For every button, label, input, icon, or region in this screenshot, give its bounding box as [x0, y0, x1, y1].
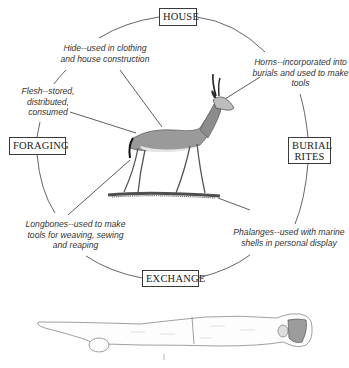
- category-box-burial-rites: BURIAL RITES: [288, 137, 331, 164]
- category-box-exchange: EXCHANGE: [142, 270, 199, 287]
- leader-hide: [120, 70, 162, 127]
- annotation-longbones: Longbones--used to make tools for weavin…: [18, 219, 133, 251]
- leader-longbones: [68, 160, 130, 215]
- annotation-hide: Hide--used in clothing and house constru…: [45, 43, 165, 64]
- annotation-phalanges: Phalanges--used with marine shells in pe…: [228, 227, 349, 248]
- bone-tool-illustration: [38, 314, 312, 360]
- category-box-house: HOUSE: [159, 8, 197, 26]
- leader-phalanges: [218, 198, 250, 210]
- gazelle-illustration: [108, 74, 234, 198]
- annotation-flesh: Flesh--stored, distributed, consumed: [8, 86, 88, 118]
- annotation-horns: Horns--incorporated into burials and use…: [248, 57, 349, 89]
- category-box-foraging: FORAGING: [9, 137, 66, 155]
